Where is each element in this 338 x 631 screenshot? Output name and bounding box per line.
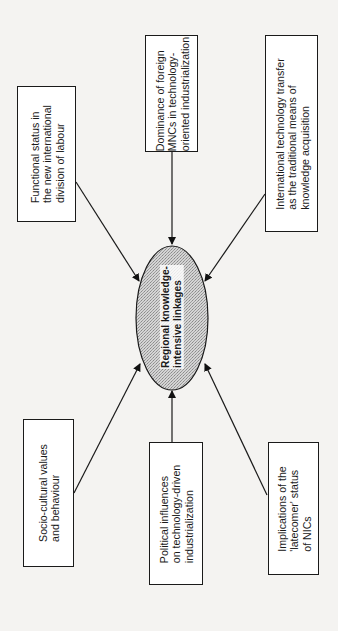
edge-latecomer-status [205, 364, 267, 495]
edge-socio-cultural [74, 364, 140, 493]
factor-label: Functional status in the new internation… [28, 105, 65, 203]
edge-functional-status [76, 182, 139, 281]
factor-label: International technology transfer as the… [273, 58, 310, 209]
factor-box-tech-transfer: International technology transfer as the… [265, 35, 318, 232]
edge-tech-transfer [205, 194, 265, 281]
factor-label: Implications of the 'latecomer' status o… [275, 466, 312, 551]
factor-box-functional-status: Functional status in the new internation… [17, 86, 76, 222]
factor-label: Political influences on technology-drive… [158, 464, 195, 562]
factor-box-latecomer-status: Implications of the 'latecomer' status o… [268, 442, 319, 575]
factor-box-political-influences: Political influences on technology-drive… [149, 442, 203, 585]
factor-box-socio-cultural: Socio-cultural values and behaviour [23, 419, 74, 567]
factor-label: Socio-cultural values and behaviour [36, 444, 61, 542]
factor-box-foreign-mncs: Dominance of foreign MNCs in technology-… [145, 35, 198, 152]
factor-label: Dominance of foreign MNCs in technology-… [153, 36, 190, 150]
center-node-label: Regional knowledge- intensive linkages [160, 265, 184, 369]
